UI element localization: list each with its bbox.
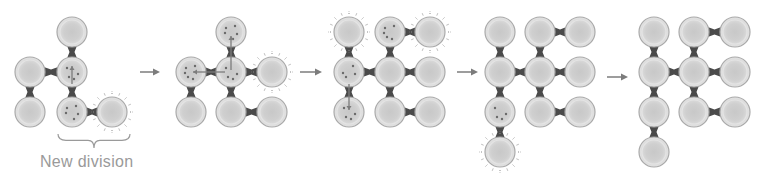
arrow-right-icon: [300, 69, 322, 76]
cell: [375, 97, 405, 127]
cell: [679, 17, 709, 47]
new-division-label: New division: [40, 153, 133, 171]
cell: [679, 97, 709, 127]
new-cell: [92, 92, 133, 133]
new-cell: [410, 12, 451, 53]
cell: [15, 57, 45, 87]
new-division-brace: [58, 134, 130, 148]
cell: [485, 97, 515, 127]
cell: [565, 97, 595, 127]
cell: [565, 57, 595, 87]
cell: [176, 97, 206, 127]
cell: [485, 57, 515, 87]
cell: [485, 17, 515, 47]
cell: [57, 97, 87, 127]
cell: [565, 17, 595, 47]
cell: [375, 57, 405, 87]
cell: [639, 97, 669, 127]
cell: [720, 97, 750, 127]
cell: [257, 97, 287, 127]
cell: [639, 17, 669, 47]
cell: [525, 97, 555, 127]
arrow-right-icon: [457, 69, 478, 76]
cell: [57, 17, 87, 47]
cell: [334, 57, 364, 87]
cell: [525, 57, 555, 87]
cell: [216, 97, 246, 127]
cell: [639, 137, 669, 167]
brace: [58, 134, 130, 148]
cell: [679, 57, 709, 87]
junctions: [24, 26, 724, 141]
cell: [639, 57, 669, 87]
cell: [415, 97, 445, 127]
new-cell: [252, 52, 293, 93]
cells: [15, 12, 750, 173]
new-cell: [480, 132, 521, 173]
cell: [375, 17, 405, 47]
cell: [720, 17, 750, 47]
cell-division-diagram: New division: [0, 0, 763, 179]
cell: [415, 57, 445, 87]
cell: [15, 97, 45, 127]
cell: [525, 17, 555, 47]
new-cell: [329, 12, 370, 53]
arrow-right-icon: [607, 74, 628, 81]
arrow-right-icon: [140, 69, 160, 76]
cell: [720, 57, 750, 87]
